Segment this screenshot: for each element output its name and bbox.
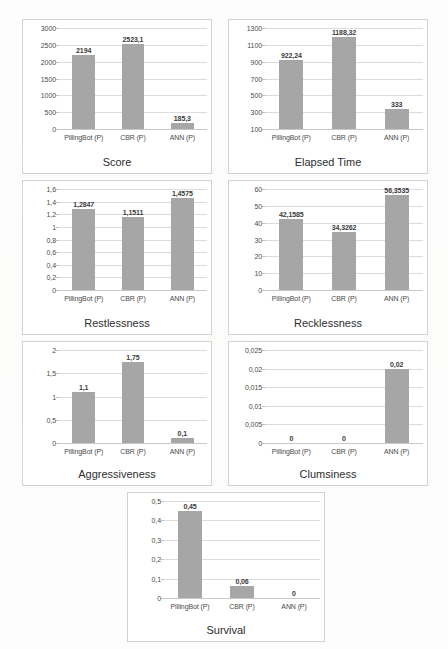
- bar[interactable]: 2194: [72, 55, 95, 129]
- chart-title-elapsed-time: Elapsed Time: [229, 156, 427, 168]
- x-tick-label: ANN (P): [158, 134, 207, 141]
- y-tick-label: 0,02: [249, 365, 262, 372]
- bar-slot: 1,4575: [158, 189, 207, 290]
- bar-value-label: 333: [391, 101, 402, 108]
- y-tick-label: 0,1: [152, 575, 161, 582]
- bar[interactable]: 0,02: [385, 369, 409, 443]
- bar[interactable]: 56,3535: [385, 195, 409, 290]
- x-axis-category-labels: PillingBot (P)CBR (P)ANN (P): [265, 134, 423, 141]
- bar-series: 1,11,750,1: [59, 350, 207, 443]
- y-axis-tick-labels: 00,0050,010,0150,020,025: [229, 342, 265, 485]
- chart-title-survival: Survival: [128, 624, 324, 636]
- chart-title-clumsiness: Clumsiness: [229, 468, 427, 480]
- bar-slot: 0,06: [216, 501, 268, 598]
- y-tick-label: 3000: [41, 25, 56, 32]
- x-tick-label: PillingBot (P): [265, 134, 318, 141]
- bar[interactable]: 185,3: [171, 123, 194, 129]
- y-axis-tick-labels: 0102030405060: [229, 181, 265, 334]
- y-axis-tick-labels: 10030050070090011001300: [229, 20, 265, 173]
- chart-panel-elapsed-time: 10030050070090011001300922,241188,32333P…: [228, 19, 428, 174]
- chart-panel-recklessness: 010203040506042,158534,326256,3535Pillin…: [228, 180, 428, 335]
- y-axis-tick-labels: 00,10,20,30,40,5: [128, 493, 164, 641]
- bar-value-label: 2523,1: [123, 36, 144, 43]
- bar-value-label: 2194: [76, 47, 91, 54]
- y-tick-label: 1000: [41, 92, 56, 99]
- bar[interactable]: 1,2847: [72, 209, 95, 290]
- x-tick-label: ANN (P): [268, 603, 320, 610]
- bar[interactable]: 42,1585: [279, 219, 303, 290]
- bar[interactable]: 34,3262: [332, 232, 356, 290]
- x-tick-label: CBR (P): [216, 603, 268, 610]
- x-axis-line: [59, 129, 207, 130]
- x-axis-line: [265, 129, 423, 130]
- bar-value-label: 56,3535: [384, 187, 409, 194]
- bar-value-label: 0: [289, 435, 293, 442]
- bar[interactable]: 1,1: [72, 392, 95, 443]
- bar-slot: 0,1: [158, 350, 207, 443]
- bar-slot: 1,2847: [59, 189, 108, 290]
- bar[interactable]: 2523,1: [122, 44, 145, 129]
- y-tick-label: 900: [251, 58, 262, 65]
- y-tick-label: 0,8: [47, 236, 56, 243]
- bar[interactable]: 0,1: [171, 438, 194, 443]
- bar[interactable]: 0,06: [230, 586, 254, 598]
- bar-slot: 56,3535: [370, 189, 423, 290]
- bar-value-label: 1,1: [79, 384, 88, 391]
- bar-value-label: 0,1: [178, 430, 187, 437]
- y-tick-label: 0,6: [47, 249, 56, 256]
- y-tick-label: 1,4: [47, 198, 56, 205]
- bar-slot: 0: [265, 350, 318, 443]
- bar-slot: 1,1: [59, 350, 108, 443]
- x-axis-category-labels: PillingBot (P)CBR (P)ANN (P): [59, 134, 207, 141]
- plot-area: 00,0050,010,0150,020,025000,02PillingBot…: [229, 342, 427, 485]
- x-tick-label: ANN (P): [370, 295, 423, 302]
- x-tick-label: CBR (P): [318, 134, 371, 141]
- bar-series: 1,28471,15111,4575: [59, 189, 207, 290]
- bar-series: 21942523,1185,3: [59, 28, 207, 129]
- y-tick-label: 1500: [41, 75, 56, 82]
- x-tick-label: PillingBot (P): [59, 134, 108, 141]
- x-axis-line: [265, 443, 423, 444]
- y-tick-mark: [56, 290, 59, 291]
- y-tick-label: 10: [254, 270, 262, 277]
- bar-slot: 0,45: [164, 501, 216, 598]
- bar[interactable]: 1,1511: [122, 217, 145, 290]
- bar[interactable]: 1,4575: [171, 198, 194, 290]
- bar-value-label: 0,02: [390, 361, 403, 368]
- y-tick-label: 0,5: [152, 498, 161, 505]
- bar-series: 000,02: [265, 350, 423, 443]
- plot-area: 010203040506042,158534,326256,3535Pillin…: [229, 181, 427, 334]
- bar-series: 42,158534,326256,3535: [265, 189, 423, 290]
- bar-slot: 34,3262: [318, 189, 371, 290]
- plot-area: 05001000150020002500300021942523,1185,3P…: [23, 20, 211, 173]
- bar-value-label: 922,24: [281, 52, 302, 59]
- bar[interactable]: 922,24: [279, 60, 303, 129]
- y-tick-label: 1,5: [47, 370, 56, 377]
- y-tick-label: 1,6: [47, 186, 56, 193]
- bar-value-label: 0: [342, 435, 346, 442]
- y-tick-label: 2500: [41, 41, 56, 48]
- y-tick-label: 500: [45, 109, 56, 116]
- x-axis-line: [265, 290, 423, 291]
- x-axis-category-labels: PillingBot (P)CBR (P)ANN (P): [265, 448, 423, 455]
- x-tick-label: PillingBot (P): [265, 448, 318, 455]
- bar[interactable]: 333: [385, 109, 409, 129]
- y-tick-label: 100: [251, 126, 262, 133]
- x-tick-label: PillingBot (P): [164, 603, 216, 610]
- x-tick-label: PillingBot (P): [59, 295, 108, 302]
- bar-slot: 0,02: [370, 350, 423, 443]
- x-tick-label: CBR (P): [108, 448, 157, 455]
- bar-value-label: 0,45: [183, 503, 196, 510]
- y-axis-tick-labels: 050010001500200025003000: [23, 20, 59, 173]
- bar[interactable]: 1,75: [122, 362, 145, 443]
- bar[interactable]: 0,45: [178, 511, 202, 598]
- bar-slot: 42,1585: [265, 189, 318, 290]
- bar-value-label: 1,2847: [73, 201, 94, 208]
- x-tick-label: PillingBot (P): [265, 295, 318, 302]
- y-tick-label: 1,2: [47, 211, 56, 218]
- bar-value-label: 1188,32: [332, 29, 356, 36]
- bar-value-label: 185,3: [174, 115, 191, 122]
- bar-value-label: 1,4575: [172, 190, 193, 197]
- y-tick-label: 0,4: [152, 517, 161, 524]
- bar[interactable]: 1188,32: [332, 37, 356, 129]
